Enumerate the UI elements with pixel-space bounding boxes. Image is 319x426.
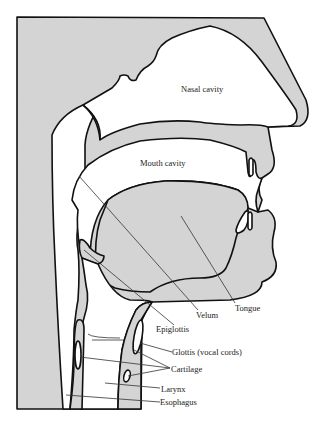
glottis-label: Glottis (vocal cords) [172, 347, 242, 357]
larynx-label: Larynx [161, 384, 186, 394]
teeth-upper [249, 158, 253, 176]
cartilage-label: Cartilage [171, 364, 202, 374]
nasal-cavity-label: Nasal cavity [181, 84, 224, 94]
teeth-lower [248, 212, 252, 230]
leader-glottis [140, 343, 172, 352]
tongue-label: Tongue [235, 303, 261, 313]
velum-label: Velum [196, 310, 219, 320]
cartilage-rear [75, 341, 81, 369]
esophagus-label: Esophagus [160, 397, 197, 407]
epiglottis-label: Epiglottis [156, 324, 189, 334]
mouth-cavity-label: Mouth cavity [140, 158, 186, 168]
vocal-tract-diagram: Nasal cavity Mouth cavity Velum Tongue E… [0, 0, 319, 426]
